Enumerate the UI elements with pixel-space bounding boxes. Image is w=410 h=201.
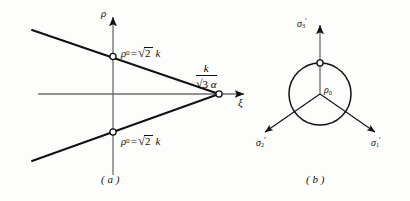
apex-denominator-radicand: 3 (203, 78, 209, 90)
sigma-3-prime-mark: ′ (305, 17, 307, 26)
apex-fraction-label: k √3 α (196, 62, 217, 92)
apex-fraction-denominator: √3 α (196, 76, 217, 92)
vertex-marker-upper (110, 53, 116, 59)
center-rho-subscript: 0 (329, 89, 332, 96)
circle-top-marker (317, 60, 323, 66)
lower-vertex-label: ρ0 = √ 2 k (121, 135, 160, 148)
xi-axis-label: ξ (238, 97, 243, 108)
vertex-marker-lower (110, 129, 116, 135)
lower-vertex-factor: k (153, 136, 161, 147)
upper-vertex-radical: √ 2 (138, 47, 153, 60)
upper-vertex-equals: = (130, 48, 138, 59)
sigma-1-prime-label: σ1′ (371, 137, 381, 148)
panel-b-graphic (265, 25, 375, 132)
radical-sign-icon: √ (196, 77, 203, 91)
figure-vector-layer (0, 0, 410, 201)
panel-b-caption: ( b ) (306, 173, 324, 185)
rho-axis-label: ρ (101, 8, 106, 19)
panel-a-caption: ( a ) (101, 173, 119, 185)
panel-b-center-label: ρ0 (324, 85, 332, 96)
apex-denominator-symbol: α (211, 78, 217, 90)
sigma-2-prime-mark: ′ (264, 136, 266, 145)
sigma-1-prime-axis-line (320, 94, 375, 132)
figure-container: ρ ξ ρ0 = √ 2 k ρ0 = √ 2 k k √3 α ( a ) ρ… (0, 0, 410, 201)
sigma-3-prime-label: σ3′ (297, 18, 307, 29)
radical-sign-icon: √ (138, 46, 145, 59)
upper-vertex-label: ρ0 = √ 2 k (121, 47, 160, 60)
panel-a-graphic (32, 17, 244, 175)
apex-fraction-numerator: k (196, 62, 217, 76)
upper-vertex-radicand: 2 (144, 47, 153, 60)
sigma-2-prime-axis-line (265, 94, 320, 132)
upper-vertex-factor: k (153, 48, 161, 59)
lower-vertex-radical: √ 2 (138, 135, 153, 148)
sigma-2-prime-label: σ2′ (256, 137, 266, 148)
vertex-marker-apex (216, 91, 222, 97)
sigma-1-prime-mark: ′ (379, 136, 381, 145)
radical-sign-icon: √ (138, 134, 145, 147)
yield-line-upper (32, 30, 219, 94)
lower-vertex-equals: = (130, 136, 138, 147)
yield-line-lower (32, 94, 219, 161)
lower-vertex-radicand: 2 (144, 135, 153, 148)
